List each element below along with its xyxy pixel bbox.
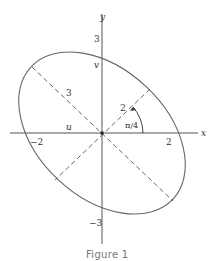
u-label: u [66, 122, 72, 132]
semi-minor-label: 2 [120, 103, 126, 113]
angle-label: π/4 [125, 121, 138, 130]
figure-caption: Figure 1 [86, 249, 128, 260]
y-axis-label: y [99, 12, 106, 22]
semi-major-label: 3 [66, 88, 72, 98]
v-label: v [94, 60, 99, 70]
origin-point [101, 132, 104, 135]
x-tick-neg2: −2 [30, 137, 43, 147]
ellipse-diagram: y x 3 −3 −2 2 v u 3 2 π/4 Figure 1 [0, 0, 214, 261]
x-tick-2: 2 [166, 137, 172, 147]
x-axis-label: x [201, 128, 206, 138]
y-tick-neg3: −3 [89, 218, 103, 228]
y-tick-3: 3 [94, 34, 100, 44]
